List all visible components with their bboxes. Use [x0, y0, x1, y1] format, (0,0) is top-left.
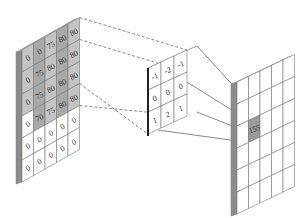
kernel-grid: -1-2-1000121	[148, 46, 197, 136]
patch-projection-line	[80, 18, 188, 51]
patch-projection-line	[80, 84, 149, 135]
output-grid: 155	[231, 55, 295, 217]
input-grid: 0075808007580808007580808007075808000000…	[16, 18, 80, 185]
convolution-diagram: 0075808007580808007580808007075808000000…	[0, 0, 304, 218]
input-grid-edge	[16, 50, 22, 184]
output-grid-edge	[231, 82, 237, 216]
